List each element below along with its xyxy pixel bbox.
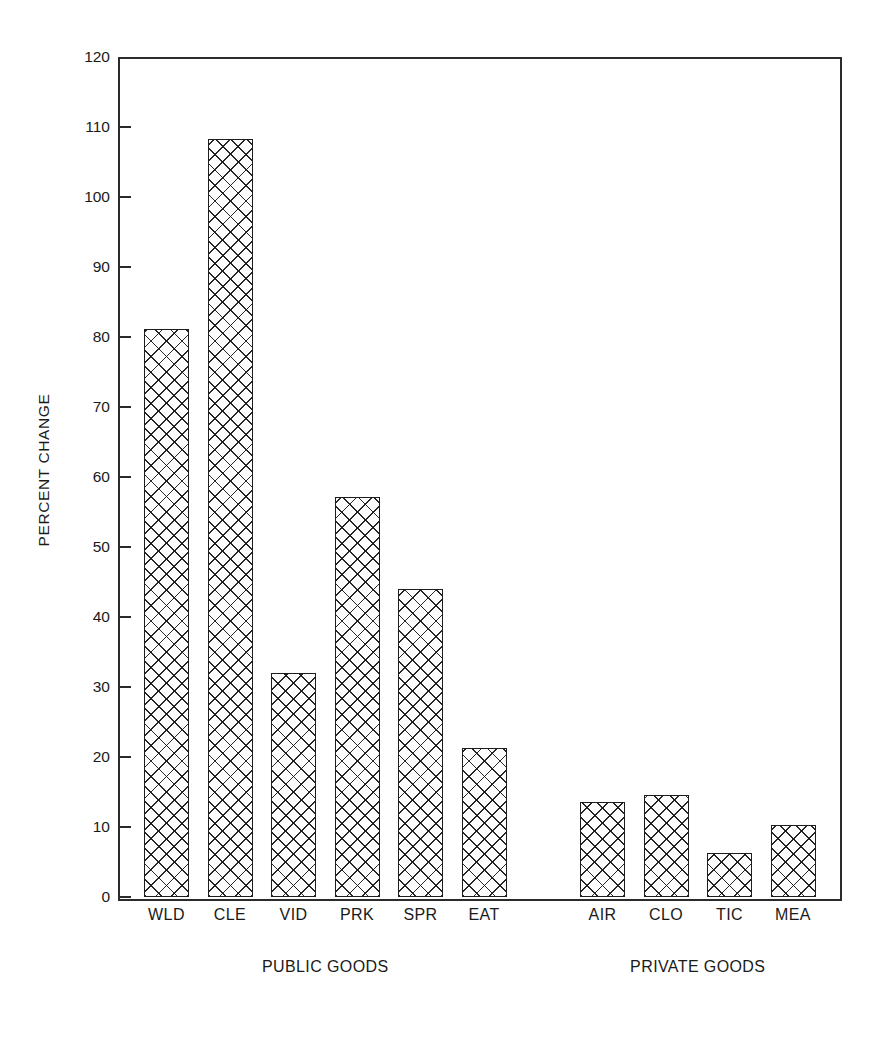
bar-vid <box>271 673 316 897</box>
x-axis-label-wld: WLD <box>148 906 185 924</box>
bar-mea <box>771 825 816 897</box>
y-axis-tick-label: 120 <box>48 49 110 65</box>
bar-chart-figure: PERCENT CHANGE 1201101009080706050403020… <box>0 0 881 1046</box>
bar-air <box>580 802 625 897</box>
x-axis-label-eat: EAT <box>468 906 499 924</box>
bar-spr <box>398 589 443 897</box>
bar-tic <box>707 853 752 897</box>
bar-wld <box>144 329 189 897</box>
x-axis-label-air: AIR <box>589 906 617 924</box>
y-axis-tick-label: 70 <box>48 399 110 415</box>
y-axis-tick-label: 0 <box>48 889 110 905</box>
x-axis-label-spr: SPR <box>403 906 437 924</box>
bar-series <box>120 59 838 897</box>
x-axis-label-cle: CLE <box>214 906 246 924</box>
y-axis-tick-label: 110 <box>48 119 110 135</box>
x-axis-label-tic: TIC <box>716 906 743 924</box>
y-axis-tick-label: 60 <box>48 469 110 485</box>
y-axis-tick-label: 40 <box>48 609 110 625</box>
y-axis-tick-label: 100 <box>48 189 110 205</box>
y-axis-tick-label: 20 <box>48 749 110 765</box>
x-axis-label-vid: VID <box>280 906 308 924</box>
y-axis-tick-label: 10 <box>48 819 110 835</box>
group-label-private-goods: PRIVATE GOODS <box>630 958 765 976</box>
x-axis-label-clo: CLO <box>649 906 683 924</box>
y-axis-tick-label: 50 <box>48 539 110 555</box>
group-label-public-goods: PUBLIC GOODS <box>262 958 389 976</box>
bar-clo <box>644 795 689 897</box>
bar-eat <box>462 748 507 897</box>
y-axis-tick-label: 90 <box>48 259 110 275</box>
x-axis-label-prk: PRK <box>340 906 374 924</box>
y-axis-tick-label: 30 <box>48 679 110 695</box>
bar-cle <box>208 139 253 897</box>
y-axis-tick-label: 80 <box>48 329 110 345</box>
x-axis-label-mea: MEA <box>775 906 811 924</box>
bar-prk <box>335 497 380 897</box>
